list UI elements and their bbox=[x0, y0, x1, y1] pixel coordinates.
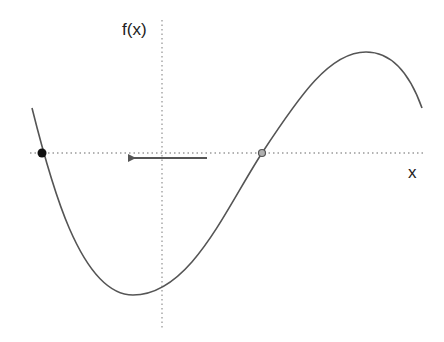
open-root-point bbox=[259, 150, 266, 157]
filled-root-point bbox=[38, 149, 47, 158]
function-curve bbox=[32, 52, 422, 295]
y-axis-label: f(x) bbox=[122, 20, 147, 39]
x-axis-label: x bbox=[408, 163, 417, 182]
function-graph: f(x) x bbox=[0, 0, 444, 342]
